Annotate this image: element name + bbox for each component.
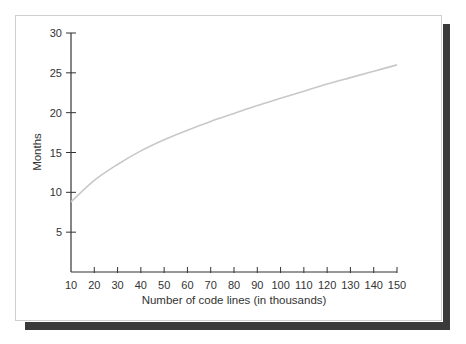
x-tick-label: 40	[135, 279, 147, 291]
y-tick-label: 25	[50, 67, 62, 79]
x-tick-label: 10	[65, 279, 77, 291]
x-axis-ticks: 102030405060708090100110120130140150	[65, 267, 406, 291]
y-axis-ticks: 51015202530	[50, 27, 76, 238]
x-tick-label: 50	[158, 279, 170, 291]
y-tick-label: 30	[50, 27, 62, 39]
x-tick-label: 110	[295, 279, 313, 291]
x-tick-label: 100	[271, 279, 289, 291]
x-tick-label: 30	[111, 279, 123, 291]
x-tick-label: 60	[181, 279, 193, 291]
x-tick-label: 140	[365, 279, 383, 291]
y-tick-label: 20	[50, 107, 62, 119]
y-tick-label: 10	[50, 186, 62, 198]
y-tick-label: 15	[50, 147, 62, 159]
x-tick-label: 150	[388, 279, 406, 291]
axes	[71, 33, 397, 272]
x-tick-label: 120	[318, 279, 336, 291]
data-series-line	[71, 65, 397, 202]
y-tick-label: 5	[56, 226, 62, 238]
x-tick-label: 70	[205, 279, 217, 291]
x-tick-label: 130	[341, 279, 359, 291]
x-tick-label: 80	[228, 279, 240, 291]
line-chart: 51015202530 1020304050607080901001101201…	[0, 0, 466, 344]
x-axis-title: Number of code lines (in thousands)	[142, 294, 327, 306]
y-axis-title: Months	[31, 133, 43, 171]
x-tick-label: 20	[88, 279, 100, 291]
x-tick-label: 90	[251, 279, 263, 291]
